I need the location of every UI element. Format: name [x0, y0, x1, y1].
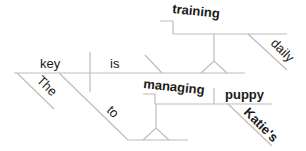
word-subject: key — [40, 56, 61, 71]
managing-step — [143, 94, 155, 104]
word-gerund-subject: training — [172, 1, 221, 21]
training-pedestal-foot — [201, 61, 227, 73]
word-article: The — [34, 73, 60, 99]
complement-slant — [145, 55, 162, 73]
managing-pedestal-foot — [143, 128, 169, 140]
word-verb: is — [110, 56, 120, 71]
word-object: puppy — [225, 87, 265, 102]
sentence-diagram: key is The to managing puppy Katie's tra… — [0, 0, 306, 151]
word-preposition: to — [104, 103, 122, 121]
word-adverb: daily — [268, 36, 298, 66]
training-step — [160, 21, 173, 34]
word-possessive: Katie's — [241, 105, 281, 145]
